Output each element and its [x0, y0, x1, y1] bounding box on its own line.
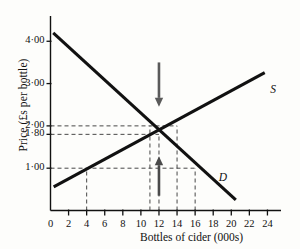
- y-axis-title: Price (£s per bottle): [14, 35, 32, 175]
- y-tick-label: 3·00: [11, 77, 45, 88]
- axes: [47, 16, 282, 216]
- supply-demand-chart: [0, 0, 300, 249]
- curve-label-D: D: [219, 171, 227, 183]
- x-tick-label: 8: [115, 218, 131, 229]
- guide-lines: [51, 126, 196, 211]
- y-tick-label: 4·00: [11, 34, 45, 45]
- x-tick-label: 10: [133, 218, 149, 229]
- x-tick-label: 2: [61, 218, 77, 229]
- x-tick-label: 6: [97, 218, 113, 229]
- x-tick-label: 22: [241, 218, 257, 229]
- up-arrow-head: [155, 156, 163, 165]
- y-tick-label: 1·80: [11, 127, 45, 138]
- x-tick-label: 18: [205, 218, 221, 229]
- x-tick-label: 4: [79, 218, 95, 229]
- down-arrow-head: [155, 98, 163, 107]
- x-tick-label: 12: [151, 218, 167, 229]
- curve-label-S: S: [270, 83, 276, 95]
- x-axis-title: Bottles of cider (000s): [140, 231, 243, 243]
- x-tick-label: 20: [223, 218, 239, 229]
- chart-figure: Price (£s per bottle) Bottles of cider (…: [0, 0, 300, 249]
- x-tick-label: 14: [169, 218, 185, 229]
- x-tick-label: 24: [259, 218, 275, 229]
- x-tick-label: 16: [187, 218, 203, 229]
- x-tick-label: 0: [43, 218, 59, 229]
- y-tick-label: 1·00: [11, 161, 45, 172]
- curve-D: [53, 33, 236, 200]
